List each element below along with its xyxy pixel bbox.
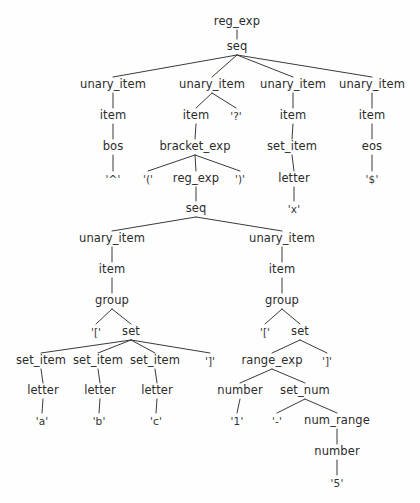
tree-node-seq: seq [186,203,207,215]
tree-node-bos: bos [103,141,124,153]
tree-node-number: number [217,385,262,397]
tree-node-sym: '[' [260,327,270,338]
tree-edge [156,399,157,413]
tree-node-reg_exp: reg_exp [173,173,219,185]
tree-node-eos: eos [362,141,382,153]
tree-node-set: set [122,326,140,338]
tree-edge [131,340,155,353]
tree-node--: '-' [272,416,282,427]
tree-node-set: set [291,326,309,338]
tree-node-reg_exp: reg_exp [214,16,260,28]
tree-edge-layer [0,0,420,503]
tree-node-x: 'x' [288,204,300,215]
tree-node-sym: '^' [106,174,121,185]
tree-node-unary_item: unary_item [80,79,146,91]
tree-node-unary_item: unary_item [249,233,315,245]
tree-node-b: 'b' [93,416,106,427]
tree-node-group: group [95,295,129,307]
tree-edge [195,155,240,171]
tree-node-item: item [99,264,125,276]
tree-node-unary_item: unary_item [260,79,326,91]
tree-edge [272,369,305,383]
tree-node-1: '1' [231,416,244,427]
tree-node-c: 'c' [150,416,162,427]
tree-node-item: item [183,110,209,122]
tree-edge [237,399,240,413]
tree-node-5: '5' [331,478,344,489]
tree-edge [41,369,43,383]
tree-edge [292,155,294,171]
tree-node-number: number [314,446,359,458]
tree-node-item: item [100,110,126,122]
tree-edge [240,369,272,383]
tree-node-letter: letter [84,385,116,397]
tree-node-set_num: set_num [280,385,330,397]
tree-node-set_item: set_item [130,355,180,367]
tree-node-sym: ']' [205,356,215,367]
tree-node-sym: ')' [235,174,245,185]
tree-node-num_range: num_range [304,415,370,427]
tree-node-a: 'a' [36,416,49,427]
tree-node-item: item [269,264,295,276]
tree-edge [98,369,100,383]
tree-edge [112,309,131,324]
tree-node-unary_item: unary_item [179,79,245,91]
tree-node-range_exp: range_exp [241,355,302,367]
tree-edge [212,93,236,108]
tree-edge [112,217,196,231]
tree-edge [96,309,112,324]
tree-edge [195,155,196,171]
tree-node-sym: '$' [366,174,379,185]
tree-edge [113,55,237,77]
tree-edge [148,155,195,171]
parse-tree-figure: reg_expsequnary_itemunary_itemunary_item… [0,0,420,503]
tree-edge [196,217,282,231]
tree-edge [98,340,131,353]
tree-node-set_item: set_item [16,355,66,367]
tree-edge [131,340,210,353]
tree-node-sym: '?' [230,111,242,122]
tree-node-letter: letter [278,173,310,185]
tree-edge [292,124,293,139]
tree-node-seq: seq [227,41,248,53]
tree-edge [155,369,157,383]
tree-node-sym: '(' [143,174,153,185]
tree-edge [272,340,300,353]
tree-node-sym: ']' [322,356,332,367]
tree-node-item: item [359,110,385,122]
tree-edge [212,55,237,77]
tree-edge [41,340,131,353]
tree-node-item: item [280,110,306,122]
tree-edge [265,309,282,324]
tree-edge [305,399,337,413]
tree-edge [195,124,196,139]
tree-edge [277,399,305,413]
tree-node-letter: letter [141,385,173,397]
tree-node-sym: '[' [91,327,101,338]
tree-edge [42,399,43,413]
tree-edge [237,55,372,77]
tree-edge [196,93,212,108]
tree-node-unary_item: unary_item [339,79,405,91]
tree-edge [282,309,300,324]
tree-edge [300,340,327,353]
tree-node-set_item: set_item [73,355,123,367]
tree-node-set_item: set_item [267,141,317,153]
tree-node-group: group [265,295,299,307]
tree-edge [237,55,293,77]
tree-node-letter: letter [27,385,59,397]
tree-node-unary_item: unary_item [79,233,145,245]
tree-edge [99,399,100,413]
tree-node-bracket_exp: bracket_exp [159,141,230,153]
